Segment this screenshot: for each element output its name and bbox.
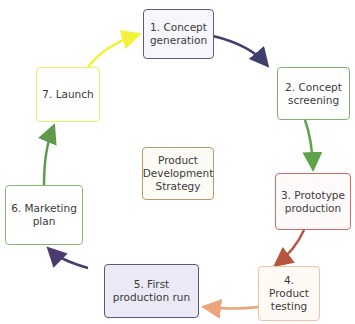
step-5-first-production-run: 5. First production run	[104, 264, 199, 318]
step-4-label: 4. Product testing	[263, 274, 315, 313]
step-7-launch: 7. Launch	[36, 67, 100, 122]
step-1-concept-generation: 1. Concept generation	[143, 9, 214, 59]
step-6-marketing-plan: 6. Marketing plan	[5, 185, 83, 245]
arrow-2-to-3	[305, 120, 313, 167]
center-label: Product Development Strategy	[143, 154, 214, 193]
step-2-concept-screening: 2. Concept screening	[277, 67, 350, 120]
arrow-7-to-1	[88, 35, 137, 67]
arrow-5-to-6	[50, 250, 88, 268]
arrow-6-to-7	[44, 128, 53, 185]
step-3-label: 3. Prototype production	[281, 189, 345, 215]
step-7-label: 7. Launch	[42, 88, 93, 101]
step-3-prototype-production: 3. Prototype production	[275, 173, 351, 230]
step-2-label: 2. Concept screening	[285, 81, 342, 107]
step-1-label: 1. Concept generation	[150, 21, 207, 47]
step-5-label: 5. First production run	[113, 278, 190, 304]
center-product-development-strategy: Product Development Strategy	[142, 147, 214, 200]
arrow-1-to-2	[213, 36, 266, 64]
arrow-3-to-4	[277, 230, 304, 264]
arrow-4-to-5	[206, 307, 260, 309]
step-6-label: 6. Marketing plan	[11, 202, 77, 228]
step-4-product-testing: 4. Product testing	[258, 266, 320, 321]
